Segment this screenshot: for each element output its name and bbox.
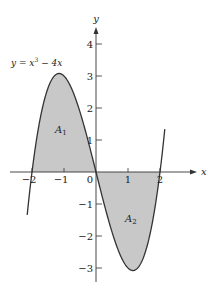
y-tick-label: 1 bbox=[87, 135, 93, 146]
y-tick-label: 4 bbox=[87, 39, 93, 50]
plot-area: x y −2−1012 4321−1−2−3 y = x3 − 4x A1 A2 bbox=[0, 0, 208, 294]
x-axis-arrow-icon bbox=[190, 170, 197, 175]
y-tick-label: 3 bbox=[87, 71, 93, 82]
y-tick-label: −2 bbox=[78, 231, 93, 242]
y-tick-label: −3 bbox=[78, 263, 93, 274]
x-axis-label: x bbox=[201, 166, 207, 177]
y-tick-label: 2 bbox=[87, 103, 93, 114]
x-tick-label: 2 bbox=[157, 174, 163, 185]
region-a1 bbox=[32, 73, 96, 172]
y-tick-label: −1 bbox=[78, 199, 93, 210]
x-tick-label: −1 bbox=[54, 174, 69, 185]
x-tick-label: −2 bbox=[22, 174, 37, 185]
y-axis-label: y bbox=[92, 13, 99, 24]
function-label: y = x3 − 4x bbox=[10, 56, 62, 68]
x-tick-label: 0 bbox=[87, 174, 93, 185]
y-axis-arrow-icon bbox=[94, 27, 99, 34]
x-tick-label: 1 bbox=[125, 174, 131, 185]
